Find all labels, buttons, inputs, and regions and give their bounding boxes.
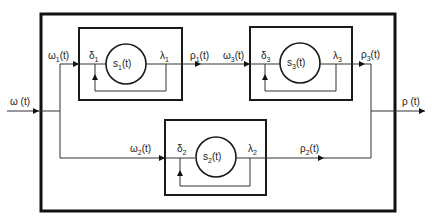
svg-text:λ1: λ1 xyxy=(160,50,169,63)
svg-text:ω2(t): ω2(t) xyxy=(130,143,151,156)
svg-text:δ3: δ3 xyxy=(261,50,271,63)
feedback-arrow-icon xyxy=(92,74,98,80)
svg-text:λ3: λ3 xyxy=(333,50,342,63)
block-diagram: ω (t) ω1(t) s1(t) δ1 λ1 ρ1(t) ω3(t) s3(t… xyxy=(0,0,435,222)
system-output: ρ (t) xyxy=(371,64,425,158)
svg-text:ρ2(t): ρ2(t) xyxy=(300,143,319,156)
svg-text:δ1: δ1 xyxy=(89,50,99,63)
block-s2: ω2(t) s2(t) δ2 λ2 ρ2(t) xyxy=(60,120,371,195)
arrow-icon xyxy=(33,108,39,114)
input-label: ω xyxy=(10,96,18,107)
block-s1: ω1(t) s1(t) δ1 λ1 ρ1(t) xyxy=(48,28,250,100)
feedback-arrow-icon xyxy=(262,74,268,80)
svg-text:ρ1(t): ρ1(t) xyxy=(190,50,209,63)
svg-text:ρ3(t): ρ3(t) xyxy=(361,49,380,62)
svg-text:λ2: λ2 xyxy=(248,143,257,156)
arrow-icon xyxy=(419,108,425,114)
system-input: ω (t) xyxy=(7,96,60,114)
svg-text:ω3(t): ω3(t) xyxy=(223,50,244,63)
feedback-arrow-icon xyxy=(177,170,183,176)
system-boundary xyxy=(41,14,395,211)
svg-text:δ2: δ2 xyxy=(177,143,187,156)
arrow-icon xyxy=(359,61,365,67)
block-s3: ω3(t) s3(t) δ3 λ3 ρ3(t) xyxy=(223,27,380,100)
arrow-icon xyxy=(318,155,324,161)
svg-text:ω1(t): ω1(t) xyxy=(48,50,69,63)
svg-text:ω (t): ω (t) xyxy=(10,96,30,107)
svg-text:ρ (t): ρ (t) xyxy=(402,96,420,107)
